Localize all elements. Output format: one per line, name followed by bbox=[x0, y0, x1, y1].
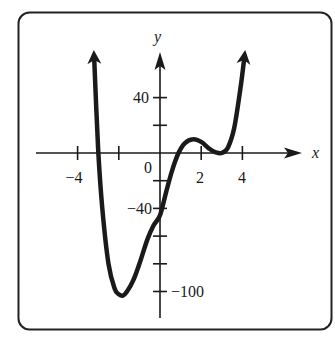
x-axis-label: x bbox=[311, 144, 319, 161]
x-tick-label-neg4: −4 bbox=[65, 169, 82, 186]
origin-label: 0 bbox=[144, 159, 152, 176]
y-tick-label-neg40: −40 bbox=[127, 200, 152, 217]
function-graph: x y 0 −4 2 4 40 −40 −100 bbox=[0, 0, 335, 342]
x-tick-label-2: 2 bbox=[196, 169, 204, 186]
x-tick-label-4: 4 bbox=[238, 169, 246, 186]
y-tick-label-40: 40 bbox=[133, 89, 149, 106]
y-axis-label: y bbox=[152, 28, 162, 46]
y-tick-label-neg100: −100 bbox=[171, 283, 204, 300]
